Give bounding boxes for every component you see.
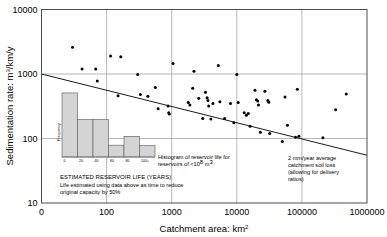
data-point: [247, 112, 250, 115]
data-point: [256, 100, 259, 103]
data-point: [345, 92, 348, 95]
soil-loss-line4: ratios): [288, 176, 304, 182]
data-point: [154, 86, 157, 89]
data-point: [268, 132, 271, 135]
data-point: [209, 118, 212, 121]
data-point: [172, 62, 175, 65]
data-point: [259, 131, 262, 134]
data-point: [294, 136, 297, 139]
data-point: [321, 136, 324, 139]
reservoir-life-title: ESTIMATED RESERVOIR LIFE (YEARS): [60, 174, 171, 180]
data-point: [197, 97, 200, 100]
hist-tick-label: 40: [95, 159, 99, 163]
x-tick-label: 100: [99, 207, 114, 217]
data-point: [232, 121, 235, 124]
data-point: [109, 55, 112, 58]
x-tick-label: 100000: [287, 207, 317, 217]
hist-caption-line2: reservoirs of <108 m3: [158, 159, 213, 167]
data-point: [119, 55, 122, 58]
data-point: [229, 102, 232, 105]
hist-bar: [78, 120, 94, 157]
y-tick-label: 10000: [12, 5, 37, 15]
data-point: [249, 125, 252, 128]
reservoir-life-note1: Life estimated using data above as time …: [60, 182, 183, 188]
hist-bar: [93, 120, 109, 157]
hist-tick-label: 0: [64, 159, 66, 163]
data-point: [168, 112, 171, 115]
annotation-reservoir-life: ESTIMATED RESERVOIR LIFE (YEARS) Life es…: [60, 174, 183, 195]
hist-bar: [109, 145, 125, 157]
data-point: [71, 46, 74, 49]
sedimentation-rate-chart: 020406080100+Frequency 01001000100001000…: [0, 0, 387, 237]
hist-caption-line1: Histogram of reservoir life for: [158, 154, 230, 160]
data-point: [117, 94, 120, 97]
hist-tick-label: 60: [110, 159, 114, 163]
y-tick-label: 1000: [17, 69, 37, 79]
data-point: [136, 73, 139, 76]
data-point: [211, 102, 214, 105]
data-point: [167, 104, 170, 107]
hist-bar: [140, 146, 156, 157]
data-point: [281, 140, 284, 143]
data-point: [283, 95, 286, 98]
y-tick-label: 10: [27, 198, 37, 208]
data-point: [334, 108, 337, 111]
data-point: [191, 87, 194, 90]
x-tick-label: 1000: [162, 207, 182, 217]
data-point: [243, 111, 246, 114]
data-point: [157, 107, 160, 110]
data-point: [207, 104, 210, 107]
data-point: [296, 88, 299, 91]
data-point: [297, 135, 300, 138]
y-tick-label: 100: [22, 134, 37, 144]
data-point: [94, 67, 97, 70]
data-point: [217, 64, 220, 67]
data-point: [201, 117, 204, 120]
data-point: [218, 100, 221, 103]
scatter-points: [71, 46, 348, 143]
data-point: [223, 117, 226, 120]
hist-bar: [124, 136, 140, 157]
data-point: [286, 124, 289, 127]
data-point: [192, 70, 195, 73]
data-point: [263, 90, 266, 93]
soil-loss-line3: (allowing for delivery: [288, 169, 339, 175]
soil-loss-line2: catchment soil loss: [288, 162, 335, 168]
hist-y-axis-label: Frequency: [57, 123, 61, 141]
data-point: [139, 93, 142, 96]
data-point: [257, 104, 260, 107]
x-tick-label: 1000000: [349, 207, 384, 217]
data-point: [146, 95, 149, 98]
data-point: [81, 67, 84, 70]
reservoir-life-note2: original capacity by 50%: [60, 189, 120, 195]
inset-histogram: 020406080100+Frequency: [57, 93, 155, 163]
hist-bar: [62, 93, 78, 157]
hist-tick-label: 100+: [141, 159, 149, 163]
soil-loss-line1: 2 mm/year average: [288, 155, 336, 161]
data-point: [188, 104, 191, 107]
data-point: [267, 101, 270, 104]
y-axis-title: Sedimentation rate: m3/km/y: [4, 46, 15, 165]
hist-tick-label: 20: [79, 159, 83, 163]
hist-tick-label: 80: [126, 159, 130, 163]
data-point: [253, 89, 256, 92]
data-point: [204, 91, 207, 94]
data-point: [96, 79, 99, 82]
x-axis-title: Catchment area: km2: [160, 223, 250, 234]
x-tick-label: 0: [39, 207, 44, 217]
chart-svg: 020406080100+Frequency 01001000100001000…: [0, 0, 387, 237]
data-point: [237, 101, 240, 104]
x-tick-label: 10000: [224, 207, 249, 217]
data-point: [206, 99, 209, 102]
data-point: [206, 96, 209, 99]
annotation-soil-loss: 2 mm/year average catchment soil loss (a…: [288, 155, 339, 182]
data-point: [235, 73, 238, 76]
annotation-histogram-caption: Histogram of reservoir life for reservoi…: [158, 154, 230, 167]
